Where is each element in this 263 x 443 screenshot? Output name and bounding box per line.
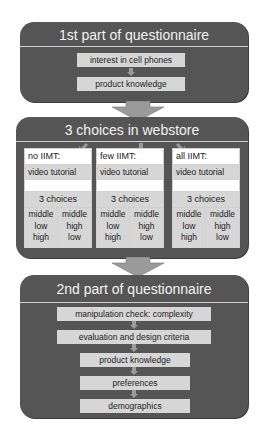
order-b: middle high low — [58, 208, 91, 248]
step-evaluation-design-criteria: evaluation and design criteria — [57, 330, 211, 344]
order-item: low — [58, 232, 91, 244]
webstore-panel: 3 choices in webstore no IIMT: video tut… — [16, 117, 248, 258]
order-b: middle high low — [206, 208, 239, 248]
condition-label: all IIMT: — [173, 149, 239, 164]
big-arrow-down-icon — [112, 257, 164, 277]
arrow-down-icon — [130, 321, 138, 329]
arrow-down-icon — [127, 68, 135, 76]
part1-panel: 1st part of questionnaire interest in ce… — [20, 22, 248, 102]
part2-divider — [20, 302, 248, 303]
order-item: high — [130, 221, 163, 233]
order-b: middle high low — [130, 208, 163, 248]
order-item: high — [58, 221, 91, 233]
order-item: middle — [25, 209, 57, 221]
order-item: middle — [130, 209, 163, 221]
order-item: high — [97, 232, 129, 244]
order-item: low — [173, 221, 205, 233]
blank-row — [25, 180, 91, 191]
video-tutorial: video tutorial — [173, 165, 239, 179]
order-item: middle — [206, 209, 239, 221]
condition-few-iimt: few IIMT: video tutorial 3 choices middl… — [96, 148, 164, 248]
step-preferences: preferences — [80, 376, 190, 390]
webstore-divider — [16, 141, 248, 142]
order-item: low — [25, 221, 57, 233]
order-a: middle low high — [173, 208, 205, 248]
video-tutorial: video tutorial — [97, 165, 163, 179]
choices-label: 3 choices — [173, 192, 239, 207]
order-item: high — [206, 221, 239, 233]
order-item: low — [97, 221, 129, 233]
webstore-title: 3 choices in webstore — [16, 122, 248, 138]
order-item: low — [130, 232, 163, 244]
condition-label: few IIMT: — [97, 149, 163, 164]
choices-label: 3 choices — [25, 192, 91, 207]
arrow-down-icon — [130, 390, 138, 398]
condition-no-iimt: no IIMT: video tutorial 3 choices middle… — [24, 148, 92, 248]
part2-panel: 2nd part of questionnaire manipulation c… — [20, 275, 248, 418]
order-item: high — [25, 232, 57, 244]
order-item: middle — [97, 209, 129, 221]
step-product-knowledge: product knowledge — [77, 77, 185, 91]
order-item: middle — [58, 209, 91, 221]
blank-row — [173, 180, 239, 191]
choices-label: 3 choices — [97, 192, 163, 207]
blank-row — [97, 180, 163, 191]
order-item: high — [173, 232, 205, 244]
order-a: middle low high — [97, 208, 129, 248]
step-product-knowledge: product knowledge — [80, 353, 190, 367]
step-manipulation-check: manipulation check: complexity — [57, 307, 211, 321]
order-a: middle low high — [25, 208, 57, 248]
arrow-down-icon — [130, 344, 138, 352]
part2-title: 2nd part of questionnaire — [20, 281, 248, 297]
step-interest-in-cell-phones: interest in cell phones — [77, 53, 185, 67]
condition-all-iimt: all IIMT: video tutorial 3 choices middl… — [172, 148, 240, 248]
part1-divider — [20, 46, 248, 47]
arrow-down-icon — [130, 367, 138, 375]
video-tutorial: video tutorial — [25, 165, 91, 179]
order-item: low — [206, 232, 239, 244]
condition-label: no IIMT: — [25, 149, 91, 164]
step-demographics: demographics — [80, 399, 190, 413]
part1-title: 1st part of questionnaire — [20, 27, 248, 43]
order-item: middle — [173, 209, 205, 221]
